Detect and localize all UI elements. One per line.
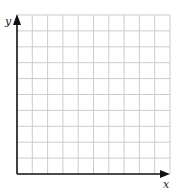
coordinate-grid: y x	[0, 0, 179, 196]
y-axis-label: y	[4, 15, 12, 28]
x-axis-arrow-icon	[160, 170, 170, 178]
grid-lines	[17, 15, 170, 174]
y-axis-arrow-icon	[13, 14, 21, 25]
x-axis-label: x	[163, 178, 170, 191]
